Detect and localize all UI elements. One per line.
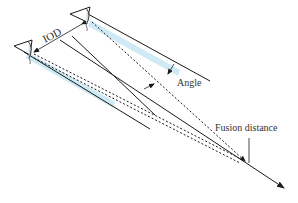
right-eye-icon [70, 7, 90, 31]
right-eye-sightline [92, 22, 245, 161]
view-axis-arrow [60, 40, 284, 188]
stereo-diagram: IOD Angle Fusion distance [0, 0, 298, 203]
fusion-distance-label: Fusion distance [215, 122, 278, 133]
left-eye-sightline-2 [34, 58, 240, 163]
left-frustum-edge [24, 52, 150, 129]
angle-label: Angle [177, 77, 202, 88]
left-eye-icon [14, 40, 32, 64]
left-eye-sightline [34, 54, 245, 161]
